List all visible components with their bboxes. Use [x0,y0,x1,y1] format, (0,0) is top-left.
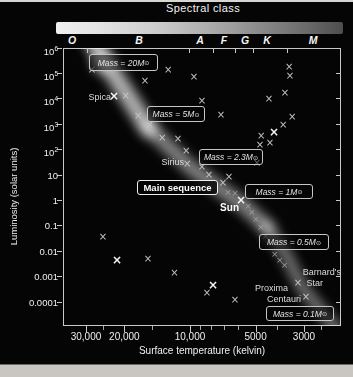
x-marker: × [217,110,225,120]
spectral-boundary-tick [189,48,190,53]
hr-diagram-figure: Spectral class OBAFGKM106105104103102101… [0,0,353,377]
spectral-class-letter: F [221,34,227,46]
y-axis-tick-right [336,302,341,303]
x-marker: × [302,292,310,302]
x-marker: × [144,254,152,264]
mass-annotation-box: Mass = 0.1M⊙ [266,306,334,321]
x-tick-label: 5000 [244,331,266,342]
main-sequence-label-box: Main sequence [137,180,218,195]
x-axis-minor-tick [277,326,278,330]
x-marker: × [164,65,172,75]
x-axis-minor-tick [200,326,201,330]
spectral-class-letter: M [309,34,318,46]
y-axis-tick-right [336,124,341,125]
y-tick-label: 0.0001 [2,297,58,308]
y-axis-tick-right [336,175,341,176]
star-label: Sirius [64,157,184,168]
x-axis-minor-tick [321,326,322,330]
x-marker: × [279,120,287,130]
x-marker: × [183,159,191,169]
x-tick-label: 20,000 [109,331,140,342]
spectral-class-title: Spectral class [166,2,240,14]
x-axis-minor-tick [211,326,212,330]
x-marker: × [190,72,198,82]
spectral-boundary-tick [253,48,254,53]
mass-annotation-box: Mass = 1M⊙ [245,184,313,199]
spectral-boundary-tick [87,48,88,53]
mass-annotation-box: Mass = 0.5M⊙ [259,234,329,250]
spectral-class-letter: A [196,34,204,46]
y-axis-tick-right [336,149,341,150]
x-marker: × [134,111,142,121]
page-edge-bottom [0,364,353,377]
mass-annotation-box: Mass = 5M⊙ [147,106,205,122]
x-marker: × [265,94,273,104]
x-marker: × [205,170,213,180]
x-marker: × [122,91,130,101]
spectral-class-letter: O [68,34,76,46]
spectral-class-letter: G [241,34,249,46]
y-axis-title: Luminosity (solar units) [8,97,19,297]
x-marker: × [286,71,294,81]
x-marker: × [198,96,206,106]
x-marker: × [112,254,122,266]
x-marker: × [158,133,166,143]
spectral-boundary-tick [213,48,214,53]
x-marker: × [170,268,178,278]
y-axis-tick-right [336,200,341,201]
spectral-class-letter: B [135,34,143,46]
x-axis-minor-tick [103,326,104,330]
y-axis-tick-right [336,98,341,99]
star-label: ProximaCentauri [181,283,301,304]
spectral-boundary-tick [287,48,288,53]
y-axis-tick-right [336,73,341,74]
x-tick-label: 30,000 [71,331,102,342]
x-axis-minor-tick [152,326,153,330]
x-marker: × [182,146,190,156]
x-marker: × [174,134,182,144]
y-axis-tick-right [336,225,341,226]
y-axis-tick-right [336,251,341,252]
x-marker: × [281,88,289,98]
spectral-class-letter: K [263,34,271,46]
y-tick-label: 105 [2,68,58,82]
y-axis-tick-right [336,48,341,49]
mass-annotation-box: Mass = 2.3M⊙ [199,149,263,165]
mass-annotation-box: Mass = 20M⊙ [89,54,158,71]
x-axis-minor-tick [224,326,225,330]
x-marker: × [141,76,149,86]
x-tick-label: 3000 [293,331,315,342]
x-marker: × [266,138,274,148]
y-tick-label: 106 [2,43,58,57]
spectral-class-gradient-bar [56,22,343,34]
star-label: Sun [119,203,239,214]
x-marker: × [288,112,296,122]
x-tick-label: 10,000 [175,331,206,342]
spectral-boundary-tick [235,48,236,53]
x-marker: × [99,232,107,242]
x-axis-title: Surface temperature (kelvin) [139,345,265,356]
x-axis-minor-tick [238,326,239,330]
